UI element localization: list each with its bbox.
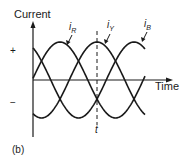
y-axis-label: Current bbox=[14, 8, 51, 20]
three-phase-current-diagram: Current Time + − t (b) iR iY iB bbox=[0, 0, 187, 158]
caption: (b) bbox=[12, 144, 24, 155]
x-axis-label: Time bbox=[155, 80, 179, 92]
minus-sign: − bbox=[10, 97, 16, 108]
leader-arrow-i-y bbox=[104, 34, 110, 44]
time-marker-label: t bbox=[95, 124, 99, 135]
leader-arrow-i-b bbox=[141, 32, 147, 42]
label-i-y: iY bbox=[107, 19, 115, 32]
y-axis-arrow-icon bbox=[31, 21, 36, 28]
label-i-r: iR bbox=[69, 21, 76, 34]
leader-arrow-i-r bbox=[66, 35, 72, 45]
label-i-b: iB bbox=[144, 18, 151, 31]
plus-sign: + bbox=[10, 45, 16, 56]
